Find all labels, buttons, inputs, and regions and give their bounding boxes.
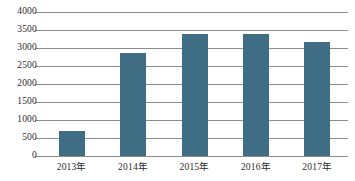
x-axis-category-label: 2017年	[287, 162, 348, 172]
bar[interactable]	[304, 42, 330, 156]
bar[interactable]	[243, 34, 269, 156]
x-axis-category-label: 2014年	[102, 162, 163, 172]
x-axis-labels: 2013年2014年2015年2016年2017年	[41, 160, 348, 176]
bar[interactable]	[182, 34, 208, 156]
y-axis-tick-label: 2000	[1, 79, 37, 89]
bar[interactable]	[59, 131, 85, 156]
y-axis-tick-label: 500	[1, 133, 37, 143]
bar-chart: 05001000150020002500300035004000 2013年20…	[0, 0, 355, 181]
bar[interactable]	[120, 53, 146, 156]
x-axis-category-label: 2016年	[225, 162, 286, 172]
y-axis-tick-label: 3500	[1, 25, 37, 35]
x-axis-category-label: 2015年	[164, 162, 225, 172]
bars-layer	[41, 12, 348, 156]
x-axis-category-label: 2013年	[41, 162, 102, 172]
y-axis-tick-label: 1500	[1, 97, 37, 107]
y-axis-tick-label: 2500	[1, 61, 37, 71]
y-axis-tick-label: 3000	[1, 43, 37, 53]
y-axis-tick-label: 1000	[1, 115, 37, 125]
y-axis-labels: 05001000150020002500300035004000	[0, 12, 37, 156]
gridline-0	[41, 156, 348, 157]
y-axis-tick-label: 4000	[1, 7, 37, 17]
y-axis-tick-label: 0	[1, 151, 37, 161]
